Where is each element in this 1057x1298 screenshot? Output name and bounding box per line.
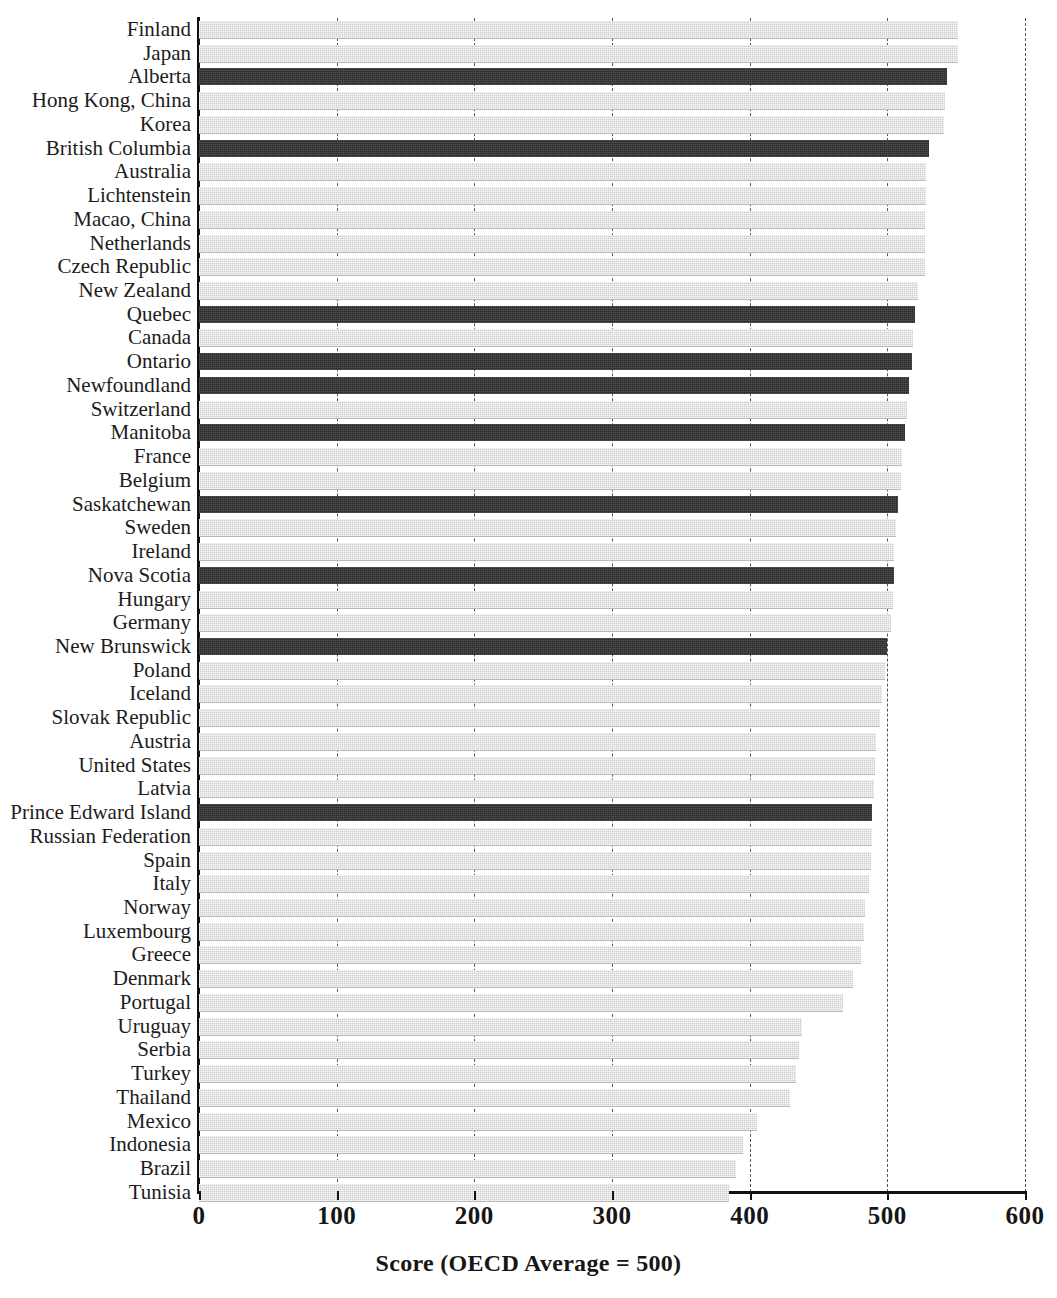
bar — [199, 211, 925, 229]
bar — [199, 614, 891, 632]
bar-row: Ireland — [0, 543, 1057, 560]
bar-highlighted — [199, 804, 872, 821]
bar — [199, 1113, 757, 1131]
category-label: Serbia — [0, 1037, 191, 1061]
category-label: Austria — [0, 729, 191, 753]
category-label: Manitoba — [0, 420, 191, 444]
bar-row: Australia — [0, 163, 1057, 180]
bar — [199, 92, 945, 110]
category-label: Tunisia — [0, 1180, 191, 1204]
category-label: Italy — [0, 871, 191, 895]
bar-row: Canada — [0, 329, 1057, 346]
bar — [199, 1184, 729, 1202]
category-label: British Columbia — [0, 136, 191, 160]
category-label: Hungary — [0, 587, 191, 611]
bar — [199, 235, 925, 253]
tick-mark-500 — [887, 1191, 889, 1200]
bar-highlighted — [199, 424, 905, 441]
bar — [199, 662, 885, 680]
bar — [199, 1065, 796, 1083]
category-label: Latvia — [0, 776, 191, 800]
bar-row: Prince Edward Island — [0, 804, 1057, 821]
bar-row: Hong Kong, China — [0, 92, 1057, 109]
bar-row: Luxembourg — [0, 923, 1057, 940]
bar — [199, 282, 918, 300]
bar-row: Poland — [0, 662, 1057, 679]
x-tick-label: 100 — [317, 1202, 356, 1230]
bar-row: Iceland — [0, 685, 1057, 702]
bar-row: Tunisia — [0, 1184, 1057, 1201]
bar — [199, 994, 843, 1012]
category-label: Slovak Republic — [0, 705, 191, 729]
category-label: Hong Kong, China — [0, 88, 191, 112]
bar-row: Slovak Republic — [0, 709, 1057, 726]
bar — [199, 923, 864, 941]
bar — [199, 1089, 790, 1107]
category-label: Ontario — [0, 349, 191, 373]
bar — [199, 899, 865, 917]
category-label: Netherlands — [0, 231, 191, 255]
tick-mark-400 — [750, 1191, 752, 1200]
bar — [199, 875, 869, 893]
bar — [199, 757, 875, 775]
bar-row: Korea — [0, 116, 1057, 133]
category-label: Brazil — [0, 1156, 191, 1180]
bar-row: Sweden — [0, 519, 1057, 536]
category-label: Alberta — [0, 64, 191, 88]
bar — [199, 329, 913, 347]
bar-row: Netherlands — [0, 235, 1057, 252]
bar — [199, 1041, 799, 1059]
category-label: Iceland — [0, 681, 191, 705]
category-label: Belgium — [0, 468, 191, 492]
bar-row: Czech Republic — [0, 258, 1057, 275]
category-label: Czech Republic — [0, 254, 191, 278]
bar-highlighted — [199, 377, 909, 394]
bar-row: United States — [0, 757, 1057, 774]
bar-row: Newfoundland — [0, 377, 1057, 394]
x-tick-label: 500 — [868, 1202, 907, 1230]
bar — [199, 1018, 802, 1036]
category-label: Prince Edward Island — [0, 800, 191, 824]
bar — [199, 401, 907, 419]
tick-mark-0 — [199, 1191, 201, 1200]
x-axis-title: Score (OECD Average = 500) — [0, 1250, 1057, 1277]
bar-row: Macao, China — [0, 211, 1057, 228]
category-label: New Brunswick — [0, 634, 191, 658]
category-label: Spain — [0, 848, 191, 872]
bar-row: Ontario — [0, 353, 1057, 370]
bar-row: Norway — [0, 899, 1057, 916]
bar-row: Germany — [0, 614, 1057, 631]
bar-row: Saskatchewan — [0, 496, 1057, 513]
bar — [199, 709, 880, 727]
bar-row: Spain — [0, 852, 1057, 869]
category-label: Luxembourg — [0, 919, 191, 943]
bar-row: Latvia — [0, 780, 1057, 797]
bar-chart: FinlandJapanAlbertaHong Kong, ChinaKorea… — [0, 0, 1057, 1298]
bar-row: Indonesia — [0, 1136, 1057, 1153]
category-label: Australia — [0, 159, 191, 183]
bar — [199, 448, 902, 466]
category-label: Finland — [0, 17, 191, 41]
category-label: Quebec — [0, 302, 191, 326]
tick-mark-300 — [612, 1191, 614, 1200]
category-label: Saskatchewan — [0, 492, 191, 516]
category-label: Norway — [0, 895, 191, 919]
bar-highlighted — [199, 353, 912, 370]
category-label: Lichtenstein — [0, 183, 191, 207]
bar — [199, 187, 926, 205]
bar — [199, 1160, 736, 1178]
bar-row: New Zealand — [0, 282, 1057, 299]
category-label: Uruguay — [0, 1014, 191, 1038]
category-label: Ireland — [0, 539, 191, 563]
category-label: Mexico — [0, 1109, 191, 1133]
bar-row: Switzerland — [0, 401, 1057, 418]
bar-row: Manitoba — [0, 424, 1057, 441]
bar-row: France — [0, 448, 1057, 465]
bar — [199, 519, 896, 537]
category-label: Denmark — [0, 966, 191, 990]
bar — [199, 780, 874, 798]
bar-row: British Columbia — [0, 140, 1057, 157]
category-label: Sweden — [0, 515, 191, 539]
bar — [199, 45, 958, 63]
category-label: New Zealand — [0, 278, 191, 302]
